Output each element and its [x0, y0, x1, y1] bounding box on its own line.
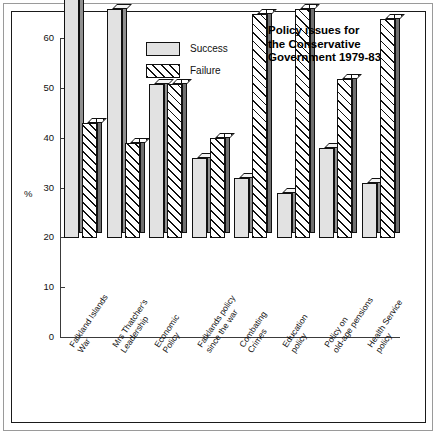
- bar-side-face: [352, 74, 357, 233]
- bar-top-face: [87, 118, 107, 123]
- bar-failure: [167, 84, 182, 238]
- y-axis-unit-label: %: [24, 188, 32, 199]
- bar-top-face: [172, 79, 192, 84]
- legend-label-success: Success: [190, 43, 228, 54]
- chart-title-line: Government 1979-83: [268, 51, 418, 65]
- bar-side-face: [140, 138, 145, 233]
- bar-group: [107, 0, 145, 337]
- bar-top-face: [342, 74, 362, 79]
- bar-side-face: [225, 133, 230, 233]
- bar-front-face: [167, 84, 182, 238]
- bar-failure: [82, 123, 97, 238]
- bar-front-face: [125, 143, 140, 238]
- bar-group: [64, 0, 102, 337]
- bar-front-face: [192, 158, 207, 238]
- y-tick-label-wrap: 60: [0, 33, 60, 43]
- legend-label-failure: Failure: [190, 65, 221, 76]
- y-tick-label-wrap: 0: [0, 332, 60, 342]
- bar-success: [234, 178, 249, 238]
- bar-front-face: [252, 14, 267, 238]
- bar-success: [319, 148, 334, 238]
- y-tick-label-wrap: 50: [0, 83, 60, 93]
- bar-front-face: [107, 9, 122, 238]
- y-tick-label: 60: [8, 33, 54, 42]
- chart-title-line: the Conservative: [268, 38, 418, 52]
- legend-swatch-success-icon: [146, 42, 180, 56]
- bar-top-face: [385, 14, 405, 19]
- bar-top-face: [257, 9, 277, 14]
- bar-failure: [337, 79, 352, 238]
- bar-top-face: [215, 133, 235, 138]
- bar-failure: [210, 138, 225, 238]
- y-tick-mark: [60, 337, 65, 338]
- bar-front-face: [82, 123, 97, 238]
- y-tick-label: 10: [8, 282, 54, 291]
- bar-success: [149, 84, 164, 238]
- legend-swatch-failure-icon: [146, 64, 180, 78]
- bar-side-face: [182, 79, 187, 233]
- y-tick-label-wrap: 10: [0, 282, 60, 292]
- bar-front-face: [149, 84, 164, 238]
- chart-title: Policy issues forthe ConservativeGovernm…: [268, 24, 418, 65]
- bar-success: [277, 193, 292, 238]
- bar-success: [192, 158, 207, 238]
- bar-top-face: [112, 4, 132, 9]
- y-tick-label: 40: [8, 133, 54, 142]
- chart-title-line: Policy issues for: [268, 24, 418, 38]
- bar-top-face: [130, 138, 150, 143]
- y-tick-label: 0: [8, 332, 54, 341]
- bar-front-face: [319, 148, 334, 238]
- bar-failure: [252, 14, 267, 238]
- y-tick-label: 50: [8, 83, 54, 92]
- bar-side-face: [97, 118, 102, 233]
- bar-front-face: [362, 183, 377, 238]
- chart-plot-area: 6050403020100 % Falkland IslandsWarMrs T…: [0, 0, 439, 436]
- bar-failure: [125, 143, 140, 238]
- y-tick-label-wrap: 40: [0, 133, 60, 143]
- bar-success: [107, 9, 122, 238]
- bar-success: [362, 183, 377, 238]
- bar-top-face: [300, 4, 320, 9]
- bar-front-face: [210, 138, 225, 238]
- bar-front-face: [64, 0, 79, 238]
- y-tick-label: 20: [8, 232, 54, 241]
- bar-front-face: [277, 193, 292, 238]
- bar-success: [64, 0, 79, 238]
- bar-front-face: [234, 178, 249, 238]
- bar-front-face: [337, 79, 352, 238]
- y-tick-label-wrap: 20: [0, 232, 60, 242]
- bar-group: [234, 0, 272, 337]
